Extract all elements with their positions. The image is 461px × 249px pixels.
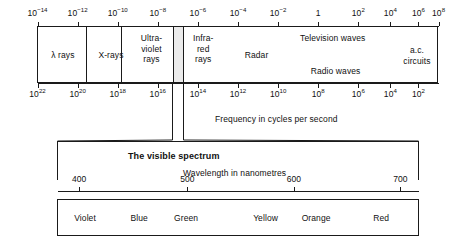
color-label-yellow: Yellow xyxy=(253,214,278,223)
color-label-green: Green xyxy=(174,214,198,223)
color-label-red: Red xyxy=(373,214,389,223)
nanometre-tick-label: 400 xyxy=(72,175,86,184)
visible-colors-box: VioletBlueGreenYellowOrangeRed xyxy=(57,199,419,236)
nanometre-tick xyxy=(400,187,401,191)
spectrum-diagram: 10−1410−1210−1010−810−610−410−2110210410… xyxy=(0,0,461,249)
nanometre-tick-label: 700 xyxy=(393,175,407,184)
nanometre-tick-label: 600 xyxy=(287,175,301,184)
nanometre-axis-line xyxy=(58,191,419,192)
nanometre-tick xyxy=(294,187,295,191)
color-label-blue: Blue xyxy=(131,214,148,223)
color-label-violet: Violet xyxy=(74,214,96,223)
nanometre-tick xyxy=(187,187,188,191)
color-label-orange: Orange xyxy=(302,214,331,223)
wavelength-nm-axis-label: Wavelength in nanometres xyxy=(183,169,286,178)
nanometre-tick xyxy=(79,187,80,191)
nanometre-tick-label: 500 xyxy=(180,175,194,184)
visible-spectrum-title: The visible spectrum xyxy=(128,152,220,161)
